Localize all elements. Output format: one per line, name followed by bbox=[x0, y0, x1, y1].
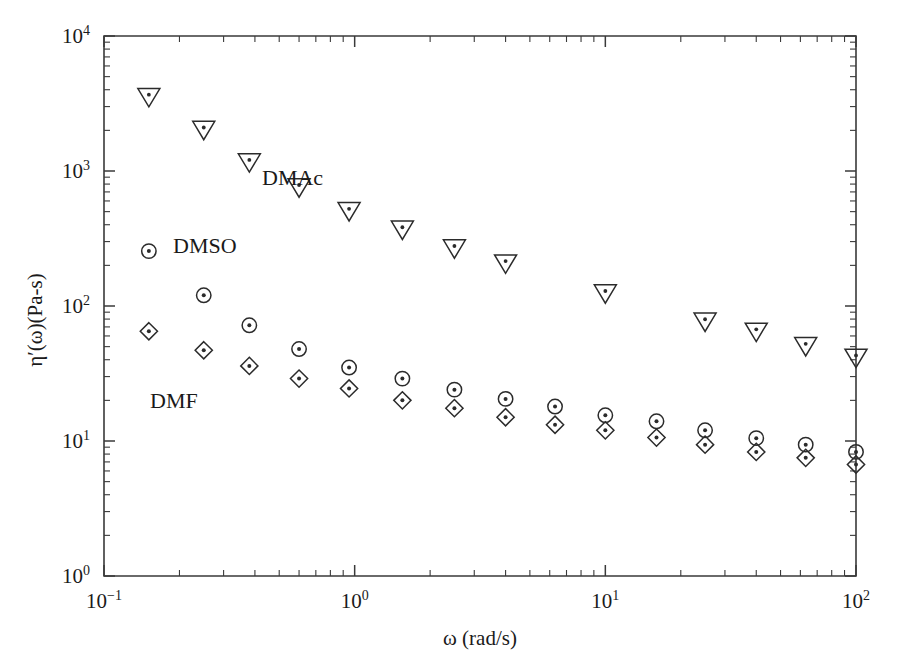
y-axis-title: η′(ω)(Pa-s) bbox=[23, 273, 47, 367]
plot-background bbox=[0, 0, 901, 663]
series-annotation-dmf: DMF bbox=[150, 388, 198, 413]
figure-container: 10−1100101102100101102103104 DMAcDMSODMF… bbox=[0, 0, 901, 663]
x-axis-title: ω (rad/s) bbox=[443, 626, 517, 650]
series-annotation-dmso: DMSO bbox=[173, 233, 237, 258]
series-annotation-dmac: DMAc bbox=[262, 165, 323, 190]
log-log-scatter-plot: 10−1100101102100101102103104 DMAcDMSODMF… bbox=[0, 0, 901, 663]
